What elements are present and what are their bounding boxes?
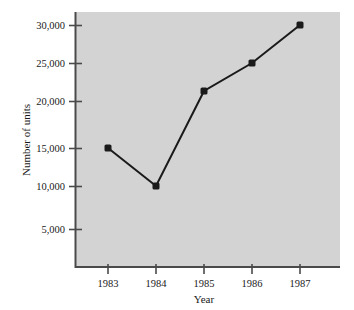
x-tick-label-1987: 1987 xyxy=(290,278,311,289)
y-tick-label-5000: 5,000 xyxy=(41,224,65,235)
data-point-1986 xyxy=(249,60,256,67)
x-tick-label-1984: 1984 xyxy=(146,278,168,289)
line-chart-figure: 30,000 25,000 20,000 15,000 10,000 5,000… xyxy=(0,0,354,310)
x-axis-title: Year xyxy=(194,293,215,305)
y-tick-label-25000: 25,000 xyxy=(36,58,65,69)
x-tick-label-1983: 1983 xyxy=(98,278,119,289)
data-point-1983 xyxy=(105,145,112,152)
x-tick-label-1985: 1985 xyxy=(194,278,215,289)
data-point-1984 xyxy=(153,183,160,190)
y-tick-label-20000: 20,000 xyxy=(36,96,65,107)
y-tick-label-10000: 10,000 xyxy=(36,181,65,192)
data-point-1987 xyxy=(297,22,304,29)
x-tick-label-1986: 1986 xyxy=(242,278,263,289)
y-axis-title: Number of units xyxy=(20,104,32,176)
chart-canvas: 30,000 25,000 20,000 15,000 10,000 5,000… xyxy=(0,0,354,310)
data-point-1985 xyxy=(201,88,208,95)
plot-area-background xyxy=(75,12,340,267)
y-tick-label-15000: 15,000 xyxy=(36,143,65,154)
y-tick-label-30000: 30,000 xyxy=(36,20,65,31)
